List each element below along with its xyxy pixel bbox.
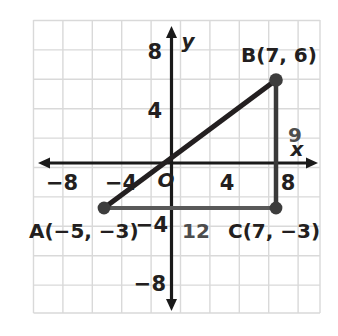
- x-tick-label-4: 4: [220, 171, 235, 195]
- y-tick-label-8: 8: [147, 40, 162, 64]
- x-tick-label-neg4: −4: [105, 171, 137, 195]
- y-axis-bottom-arrowhead: [166, 299, 177, 311]
- point-a-label: A(−5, −3): [29, 219, 139, 243]
- segment-ac-length-label: 12: [182, 219, 210, 243]
- origin-label: O: [157, 168, 174, 192]
- figure-canvas: 8 4 −4 −8 −8 −4 4 8 O x y B(7, 6) A(−5, …: [0, 0, 338, 336]
- point-c-marker: [270, 202, 283, 215]
- point-b-label: B(7, 6): [241, 43, 317, 67]
- x-tick-label-neg8: −8: [46, 171, 78, 195]
- point-b-marker: [269, 73, 283, 87]
- coordinate-plane: 8 4 −4 −8 −8 −4 4 8 O x y B(7, 6) A(−5, …: [0, 0, 338, 336]
- x-tick-label-8: 8: [281, 171, 296, 195]
- y-tick-label-neg8: −8: [134, 272, 166, 296]
- point-a-marker: [98, 202, 111, 215]
- y-tick-label-4: 4: [147, 99, 162, 123]
- segment-bc-length-label: 9: [288, 123, 302, 147]
- y-axis-top-arrowhead: [166, 26, 177, 38]
- point-c-label: C(7, −3): [228, 219, 320, 243]
- y-axis-label: y: [181, 29, 195, 53]
- y-tick-label-neg4: −4: [136, 213, 168, 237]
